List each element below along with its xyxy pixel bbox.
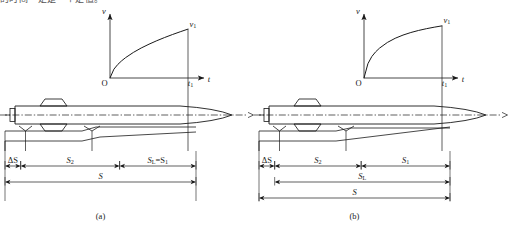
ref-step-slope	[82, 127, 96, 131]
dimensions-a: ΔSS2SL=S1S	[5, 151, 196, 201]
dimension-S: S2	[21, 155, 120, 170]
dimension-S: SL	[275, 171, 450, 186]
dimension-label: S	[98, 171, 103, 181]
origin-label: O	[101, 78, 107, 88]
dimension-label: ΔS	[8, 155, 18, 165]
dimensions-b: ΔSS2S1SLS	[259, 151, 450, 202]
t1-label: t1	[442, 78, 447, 88]
dimension-S: S	[259, 187, 450, 202]
velocity-curve	[364, 26, 442, 78]
dimension-S: S2	[275, 155, 362, 170]
dimension-S: ΔS	[5, 155, 21, 170]
dimension-label: ΔS	[262, 155, 272, 165]
lower-band-trapezoid	[40, 124, 67, 131]
dimension-SS: SL=S1	[120, 155, 196, 170]
panel-caption-b: (b)	[350, 211, 360, 221]
reference-marker-v-1	[273, 126, 286, 131]
upper-band-trapezoid	[294, 99, 321, 106]
y-axis-label: v	[356, 6, 360, 16]
panel-caption-a: (a)	[96, 211, 106, 221]
panel-b: vtOv1t1ΔSS2S1SLS(b)	[254, 6, 508, 221]
dimension-S: S	[5, 171, 196, 186]
dimension-label: S1	[402, 155, 409, 165]
dimension-S: S1	[361, 155, 450, 170]
centerline-arrow	[248, 112, 254, 117]
dimension-S: ΔS	[259, 155, 275, 170]
dimension-label: S2	[66, 155, 73, 165]
technical-figure: vtOv1t1ΔSS2SL=S1S(a)vtOv1t1ΔSS2S1SLS(b)	[0, 0, 509, 228]
velocity-curve	[110, 29, 188, 78]
upper-band-trapezoid	[40, 99, 67, 106]
vehicle-a	[0, 99, 254, 151]
y-axis-label: v	[102, 6, 106, 16]
graph-b: vtOv1t1	[355, 6, 464, 88]
graph-a: vtOv1t1	[101, 6, 210, 88]
reference-marker-v-1	[19, 126, 32, 131]
ref-taper-profile	[5, 132, 196, 151]
centerline-arrow	[502, 112, 508, 117]
figure-root: vtOv1t1ΔSS2SL=S1S(a)vtOv1t1ΔSS2S1SLS(b)	[0, 0, 509, 228]
dimension-label: S	[352, 187, 357, 197]
x-axis-label: t	[462, 74, 465, 84]
t1-label: t1	[188, 78, 193, 88]
panel-a: vtOv1t1ΔSS2SL=S1S(a)	[0, 6, 254, 221]
dimension-label: SL	[358, 171, 366, 181]
x-axis-label: t	[208, 74, 211, 84]
v1-label: v1	[190, 19, 197, 29]
vehicle-b	[254, 99, 508, 151]
origin-label: O	[355, 78, 361, 88]
dimension-label: SL=S1	[148, 155, 169, 165]
dimension-label: S2	[314, 155, 321, 165]
lower-band-trapezoid	[294, 124, 321, 131]
v1-label: v1	[444, 15, 451, 25]
